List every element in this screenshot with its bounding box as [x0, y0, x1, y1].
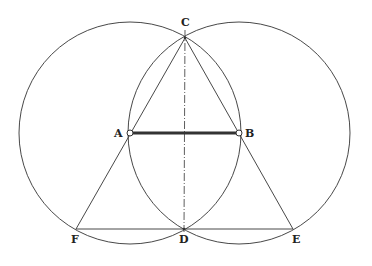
- label-A: A: [113, 127, 123, 140]
- point-A-marker: [127, 130, 133, 136]
- label-C: C: [181, 16, 190, 29]
- point-D-marker: [183, 228, 186, 231]
- label-D: D: [179, 233, 189, 246]
- geometry-diagram: C A B F D E: [0, 0, 372, 266]
- point-B-marker: [236, 130, 242, 136]
- label-B: B: [245, 127, 254, 140]
- label-F: F: [71, 233, 79, 246]
- point-C-marker: [184, 37, 187, 40]
- label-E: E: [292, 233, 300, 246]
- axis-CD: [184, 30, 185, 232]
